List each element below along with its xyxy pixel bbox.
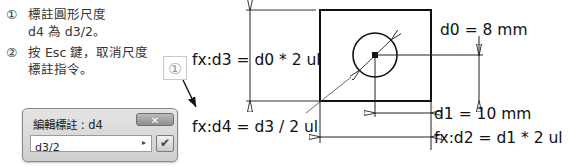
expand-arrow-icon[interactable]: ▸: [142, 138, 146, 147]
step-callout-badge: ①: [163, 56, 187, 80]
d4-leader-line: [306, 70, 360, 113]
d3-label[interactable]: fx:d3 = d0 * 2 ul: [192, 51, 321, 69]
edit-dimension-dialog: 編輯標註 : d4 ✕ ▸ ✔: [22, 108, 178, 162]
d2-label[interactable]: fx:d2 = d1 * 2 ul: [434, 129, 563, 147]
accept-button[interactable]: ✔: [156, 135, 174, 152]
callout-arrow: [183, 80, 196, 107]
close-icon: ✕: [151, 115, 159, 126]
d1-label[interactable]: d1 = 10 mm: [434, 105, 531, 123]
close-button[interactable]: ✕: [136, 113, 174, 126]
checkmark-icon: ✔: [160, 136, 170, 150]
d0-label[interactable]: d0 = 8 mm: [440, 21, 528, 39]
dimension-value-input[interactable]: [31, 140, 135, 155]
dialog-title: 編輯標註 : d4: [33, 116, 103, 132]
dimension-value-field[interactable]: ▸: [30, 135, 152, 152]
d4-label[interactable]: fx:d4 = d3 / 2 ul: [192, 118, 318, 136]
